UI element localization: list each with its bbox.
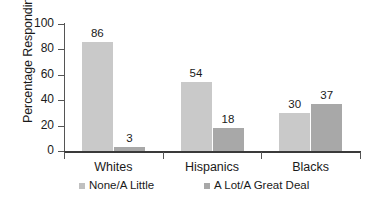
bar-hispanics-series1: 18 (213, 128, 244, 151)
legend-item-label: None/A Little (89, 179, 154, 192)
category-label-whites: Whites (64, 160, 163, 174)
x-axis-tick (163, 152, 164, 159)
bar-blacks-series1: 37 (311, 104, 342, 151)
category-label-hispanics: Hispanics (163, 160, 262, 174)
y-axis-tick-label: 20 (41, 119, 54, 132)
y-axis-tick-label: 100 (34, 17, 54, 30)
bar-value-label: 18 (222, 113, 235, 126)
bar-value-label: 86 (91, 27, 104, 40)
x-axis-tick (64, 152, 65, 159)
y-axis-tick-label: 60 (41, 68, 54, 81)
category-label-blacks: Blacks (261, 160, 360, 174)
legend-swatch-icon (79, 183, 85, 189)
bar-value-label: 54 (190, 67, 203, 80)
x-axis-tick (261, 152, 262, 159)
legend-swatch-icon (204, 183, 210, 189)
bar-value-label: 37 (320, 89, 333, 102)
bar-whites-series0: 86 (82, 42, 113, 151)
bar-value-label: 3 (126, 132, 132, 145)
legend-item-0[interactable]: None/A Little (79, 179, 154, 192)
y-axis-tick-label: 80 (41, 42, 54, 55)
y-axis-tick-label: 40 (41, 93, 54, 106)
bar-hispanics-series0: 54 (181, 82, 212, 151)
x-axis-tick (360, 152, 361, 159)
bar-value-label: 30 (288, 98, 301, 111)
legend-item-label: A Lot/A Great Deal (214, 179, 309, 192)
bar-chart: Percentage Responding 020406080100 86354… (0, 0, 384, 200)
bar-whites-series1: 3 (114, 147, 145, 151)
y-axis-tick-label: 0 (47, 144, 54, 157)
plot-area: 86354183037 (64, 24, 360, 151)
x-axis-line (64, 151, 361, 153)
y-axis-title: Percentage Responding (21, 0, 35, 137)
chart-legend: None/A LittleA Lot/A Great Deal (0, 179, 384, 195)
legend-item-1[interactable]: A Lot/A Great Deal (204, 179, 309, 192)
bar-blacks-series0: 30 (279, 113, 310, 151)
